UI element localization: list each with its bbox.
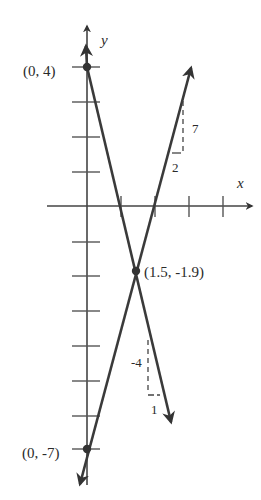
point-0-4 xyxy=(83,63,91,71)
run-label-positive: 2 xyxy=(172,160,179,175)
run-label-negative: 1 xyxy=(151,402,158,417)
x-axis-label: x xyxy=(236,175,244,191)
y-ticks xyxy=(72,67,100,449)
point-intersection-label: (1.5, -1.9) xyxy=(144,264,204,281)
graph-canvas: y x (0, 4) (0, -7) (1.5, -1.9) 7 2 -4 1 xyxy=(0,0,261,500)
rise-label-negative: -4 xyxy=(131,355,142,370)
y-axis-label: y xyxy=(99,32,108,48)
rise-label-positive: 7 xyxy=(192,121,199,136)
point-0-neg7 xyxy=(83,445,91,453)
point-top-label: (0, 4) xyxy=(23,63,56,80)
point-bottom-label: (0, -7) xyxy=(22,445,60,462)
point-intersection xyxy=(132,267,140,275)
line-negative-slope xyxy=(87,67,171,422)
